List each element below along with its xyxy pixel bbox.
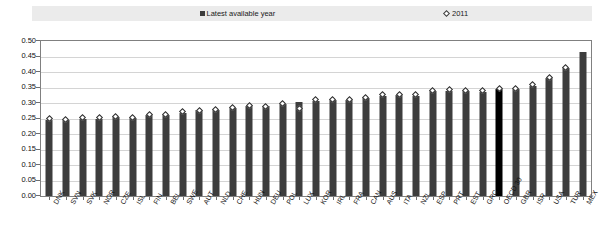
- bar-group[interactable]: [441, 41, 458, 196]
- bar-group[interactable]: [291, 41, 308, 196]
- bar[interactable]: [129, 118, 136, 196]
- bar-group[interactable]: [391, 41, 408, 196]
- x-axis-tick-mark: [583, 197, 584, 200]
- bar[interactable]: [62, 120, 69, 196]
- bar-group[interactable]: [174, 41, 191, 196]
- x-axis-tick-mark: [266, 197, 267, 200]
- bar-group[interactable]: [224, 41, 241, 196]
- x-axis-tick-mark: [316, 197, 317, 200]
- y-axis-tick-label: 0.20: [6, 130, 36, 137]
- bar-group[interactable]: [458, 41, 475, 196]
- bar[interactable]: [79, 119, 86, 197]
- bar[interactable]: [329, 100, 336, 196]
- bar-group[interactable]: [474, 41, 491, 196]
- y-axis-tick-label: 0.30: [6, 99, 36, 106]
- x-axis-tick-mark: [249, 197, 250, 200]
- bar[interactable]: [412, 96, 419, 196]
- x-axis-tick-mark: [233, 197, 234, 200]
- bar-group[interactable]: [158, 41, 175, 196]
- bar-group[interactable]: [424, 41, 441, 196]
- x-axis-tick-mark: [416, 197, 417, 200]
- bar[interactable]: [396, 95, 403, 196]
- bar[interactable]: [446, 91, 453, 196]
- bar[interactable]: [146, 115, 153, 196]
- bar-group[interactable]: [508, 41, 525, 196]
- bar[interactable]: [96, 119, 103, 197]
- x-axis-tick-mark: [366, 197, 367, 200]
- bar[interactable]: [529, 86, 536, 196]
- bar-group[interactable]: [124, 41, 141, 196]
- x-axis-tick-mark: [549, 197, 550, 200]
- bar-group[interactable]: [108, 41, 125, 196]
- bar-group[interactable]: [341, 41, 358, 196]
- bar[interactable]: [462, 91, 469, 196]
- bar-group[interactable]: [408, 41, 425, 196]
- bar[interactable]: [229, 108, 236, 196]
- y-axis-tick-label: 0.50: [6, 37, 36, 44]
- y-axis-tick-label: 0.40: [6, 68, 36, 75]
- x-axis-tick-mark: [166, 197, 167, 200]
- bar-group[interactable]: [324, 41, 341, 196]
- bar-group[interactable]: [58, 41, 75, 196]
- bar-group[interactable]: [524, 41, 541, 196]
- x-axis-tick-mark: [49, 197, 50, 200]
- bar[interactable]: [212, 110, 219, 196]
- bar[interactable]: [579, 52, 586, 196]
- bar-group[interactable]: [208, 41, 225, 196]
- bar[interactable]: [379, 96, 386, 196]
- bar-group[interactable]: [91, 41, 108, 196]
- x-axis-tick-mark: [533, 197, 534, 200]
- x-axis-tick-mark: [566, 197, 567, 200]
- bar[interactable]: [312, 101, 319, 196]
- bar[interactable]: [362, 98, 369, 196]
- x-axis-tick-mark: [333, 197, 334, 200]
- bar[interactable]: [279, 104, 286, 196]
- bar-group[interactable]: [541, 41, 558, 196]
- bar-group[interactable]: [491, 41, 508, 196]
- x-axis-tick-mark: [516, 197, 517, 200]
- x-axis-tick-mark: [116, 197, 117, 200]
- bar-group[interactable]: [141, 41, 158, 196]
- y-axis-tick-label: 0.45: [6, 52, 36, 59]
- bar-group[interactable]: [74, 41, 91, 196]
- bar-group[interactable]: [358, 41, 375, 196]
- bar[interactable]: [112, 117, 119, 196]
- bar[interactable]: [46, 120, 53, 196]
- x-axis-tick-mark: [299, 197, 300, 200]
- x-axis-tick-mark: [149, 197, 150, 200]
- bar[interactable]: [546, 78, 553, 196]
- x-axis-tick-mark: [449, 197, 450, 200]
- bar[interactable]: [262, 106, 269, 196]
- bar-group[interactable]: [241, 41, 258, 196]
- bar-group[interactable]: [374, 41, 391, 196]
- y-axis-tick-label: 0.35: [6, 83, 36, 90]
- bar-series-group: [41, 41, 591, 196]
- bar-group[interactable]: [308, 41, 325, 196]
- bar-highlight[interactable]: [496, 89, 503, 196]
- x-axis-tick-mark: [216, 197, 217, 200]
- bar[interactable]: [429, 91, 436, 196]
- x-axis-tick-mark: [499, 197, 500, 200]
- bar-group[interactable]: [258, 41, 275, 196]
- gini-bar-chart: Latest available year 2011 0.500.450.400…: [0, 0, 599, 249]
- legend-label-latest-available-year: Latest available year: [207, 9, 276, 18]
- bar[interactable]: [196, 110, 203, 196]
- x-axis-tick-mark: [466, 197, 467, 200]
- bar-group[interactable]: [274, 41, 291, 196]
- bar-group[interactable]: [191, 41, 208, 196]
- bar[interactable]: [179, 113, 186, 196]
- bar[interactable]: [162, 115, 169, 196]
- open-diamond-marker-icon: [443, 10, 450, 17]
- bar[interactable]: [346, 100, 353, 196]
- bar[interactable]: [246, 106, 253, 196]
- bar-group[interactable]: [558, 41, 575, 196]
- bar[interactable]: [296, 102, 303, 196]
- legend-label-2011: 2011: [452, 9, 468, 18]
- x-axis-tick-mark: [383, 197, 384, 200]
- y-axis-tick-label: 0.10: [6, 161, 36, 168]
- chart-legend: Latest available year 2011: [32, 6, 592, 21]
- bar[interactable]: [479, 92, 486, 196]
- bar-group[interactable]: [574, 41, 591, 196]
- bar[interactable]: [562, 68, 569, 196]
- bar-group[interactable]: [41, 41, 58, 196]
